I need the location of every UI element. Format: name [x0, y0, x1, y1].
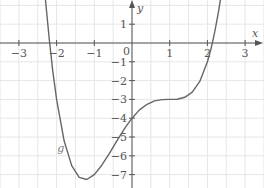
x-axis-arrow-icon: [255, 40, 263, 46]
x-tick-label: 3: [242, 47, 249, 60]
y-tick-label: −3: [111, 93, 127, 106]
x-tick-label: −1: [86, 47, 102, 60]
y-axis-arrow-icon: [129, 0, 135, 8]
curve-g: [43, 0, 222, 180]
y-axis-label: y: [136, 2, 144, 15]
y-tick-label: −6: [111, 150, 127, 163]
y-tick-label: −2: [111, 75, 127, 88]
x-tick-label: −3: [11, 47, 27, 60]
axes: [0, 0, 263, 188]
y-tick-label: 1: [120, 18, 127, 31]
origin-label: 0: [123, 45, 130, 58]
function-graph: −3−2−11231−1−2−3−4−5−6−7 x y 0 g: [0, 0, 264, 188]
x-tick-label: 1: [166, 47, 173, 60]
y-tick-label: −7: [111, 169, 127, 182]
x-axis-label: x: [252, 27, 259, 40]
y-tick-label: −4: [111, 112, 127, 125]
curve-label-g: g: [57, 142, 64, 155]
